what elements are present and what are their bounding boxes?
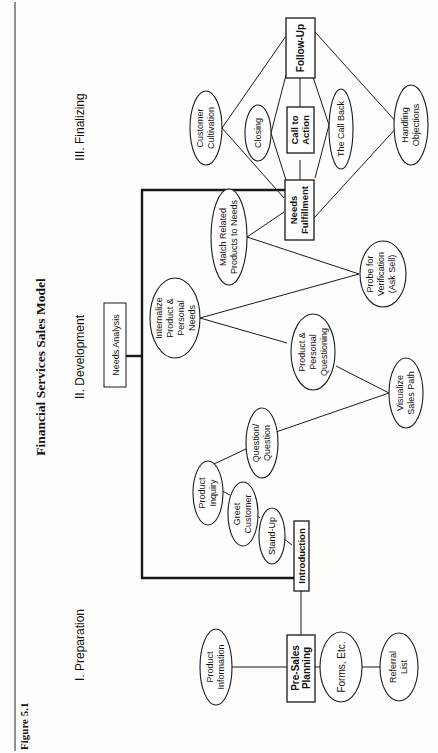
- node-stand-up: Stand-Up: [259, 508, 285, 564]
- svg-text:Closing: Closing: [253, 118, 263, 148]
- edge-fulfillment-closing: [271, 133, 286, 180]
- figure-page: Figure 5.1 Financial Services Sales Mode…: [0, 0, 438, 753]
- svg-text:Sales Path: Sales Path: [406, 371, 416, 415]
- svg-text:Needs Analysis: Needs Analysis: [111, 314, 121, 376]
- svg-text:Introduction: Introduction: [296, 528, 307, 584]
- svg-text:Forms, Etc.: Forms, Etc.: [336, 641, 347, 692]
- svg-text:Verification: Verification: [376, 252, 386, 296]
- node-question-question: Question/ Question: [246, 408, 278, 478]
- node-visualize-sales-path: Visualize Sales Path: [389, 358, 423, 428]
- svg-text:Internalize: Internalize: [154, 297, 164, 339]
- node-needs-analysis: Needs Analysis: [104, 303, 126, 387]
- svg-text:Match Related: Match Related: [218, 208, 228, 266]
- sales-model-diagram: Figure 5.1 Financial Services Sales Mode…: [0, 0, 438, 753]
- svg-text:Information: Information: [216, 644, 226, 689]
- svg-text:Questioning: Questioning: [319, 328, 329, 376]
- edge-visualize-questioning: [336, 366, 389, 393]
- figure-label: Figure 5.1: [18, 703, 30, 750]
- svg-text:Greet: Greet: [232, 502, 242, 525]
- node-the-call-back: The Call Back: [329, 89, 353, 169]
- svg-text:Follow-Up: Follow-Up: [295, 24, 306, 72]
- node-forms-etc: Forms, Etc.: [320, 632, 362, 702]
- phase-development: II. Development: [73, 314, 87, 399]
- node-follow-up: Follow-Up: [286, 18, 315, 78]
- svg-text:Personal: Personal: [308, 334, 318, 370]
- node-probe-for-verification: Probe for Verification (Ask Sell): [360, 241, 406, 307]
- svg-text:Visualize: Visualize: [395, 375, 405, 411]
- edge-question-visualize: [276, 393, 389, 432]
- node-pre-sales-planning: Pre-Sales Planning: [287, 635, 315, 702]
- edge-fulfillment-objections: [314, 125, 399, 218]
- node-product-personal-questioning: Product & Personal Questioning: [291, 314, 335, 390]
- svg-text:Product &: Product &: [297, 332, 307, 372]
- svg-text:(Ask Sell): (Ask Sell): [387, 255, 397, 294]
- svg-text:Call to: Call to: [289, 115, 300, 144]
- svg-text:Needs: Needs: [187, 304, 197, 331]
- node-internalize-needs: Internalize Product & Personal Needs: [150, 278, 200, 358]
- svg-text:Customer: Customer: [195, 108, 205, 147]
- svg-text:Probe for: Probe for: [365, 255, 375, 292]
- svg-text:The Call Back: The Call Back: [336, 100, 346, 157]
- svg-text:Pre-Sales: Pre-Sales: [290, 645, 301, 691]
- svg-text:Cultivation: Cultivation: [206, 107, 216, 149]
- edge-fulfillment-callback: [315, 125, 329, 178]
- node-match-related-products: Match Related Products to Needs: [211, 189, 247, 285]
- edge-match-fulfillment: [247, 212, 284, 237]
- node-customer-cultivation: Customer Cultivation: [190, 91, 222, 165]
- node-product-inquiry: Product Inquiry: [193, 461, 223, 525]
- phase-preparation: I. Preparation: [73, 609, 87, 681]
- svg-text:Product: Product: [197, 477, 207, 509]
- edge-closing-followup: [271, 75, 286, 133]
- node-introduction: Introduction: [294, 521, 309, 591]
- edge-callback-followup: [313, 77, 329, 125]
- svg-text:Product &: Product &: [165, 298, 175, 338]
- svg-text:Personal: Personal: [176, 300, 186, 336]
- svg-text:Fulfillment: Fulfillment: [299, 185, 310, 234]
- svg-text:Products to Needs: Products to Needs: [229, 199, 239, 274]
- svg-text:Question: Question: [262, 425, 272, 461]
- svg-text:Stand-Up: Stand-Up: [267, 517, 277, 555]
- edge-questioning-internalize: [200, 318, 287, 343]
- node-referral-list: Referral List: [380, 633, 418, 701]
- svg-text:Planning: Planning: [301, 647, 312, 689]
- svg-text:Referral: Referral: [388, 651, 398, 683]
- svg-text:Handling: Handling: [400, 107, 410, 143]
- svg-text:Customer: Customer: [243, 494, 253, 533]
- svg-text:List: List: [399, 660, 409, 675]
- node-closing: Closing: [245, 105, 271, 161]
- node-product-information: Product Information: [200, 629, 232, 705]
- diagram-title: Financial Services Sales Model: [33, 278, 48, 456]
- svg-text:Action: Action: [300, 115, 311, 145]
- svg-text:Objections: Objections: [411, 103, 421, 146]
- phase-finalizing: III. Finalizing: [73, 93, 87, 160]
- node-call-to-action: Call to Action: [287, 107, 314, 153]
- edge-objections-followup: [315, 32, 399, 125]
- node-needs-fulfillment: Needs Fulfillment: [285, 180, 314, 240]
- edge-probe-match: [247, 237, 359, 274]
- svg-text:Needs: Needs: [288, 196, 299, 225]
- node-greet-customer: Greet Customer: [228, 482, 258, 546]
- node-handling-objections: Handling Objections: [394, 85, 428, 165]
- svg-text:Question/: Question/: [251, 423, 261, 462]
- svg-text:Product: Product: [205, 651, 215, 683]
- svg-text:Inquiry: Inquiry: [208, 479, 218, 507]
